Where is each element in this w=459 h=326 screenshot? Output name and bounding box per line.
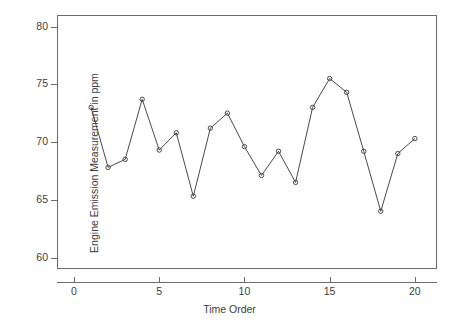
x-axis-tick bbox=[415, 277, 416, 282]
series-markers bbox=[89, 76, 417, 213]
y-axis-tick bbox=[51, 200, 57, 201]
data-layer bbox=[57, 15, 437, 269]
x-axis-tick-label: 0 bbox=[71, 286, 77, 297]
engine-emission-time-series-chart: 6065707580 Engine Emission Measurement i… bbox=[0, 0, 459, 326]
y-axis-title: Engine Emission Measurement in ppm bbox=[88, 73, 100, 253]
y-axis-tick bbox=[51, 84, 57, 85]
y-axis-tick-label: 70 bbox=[36, 136, 48, 147]
x-axis-tick bbox=[159, 277, 160, 282]
y-axis-tick-label: 80 bbox=[36, 21, 48, 32]
y-axis-tick bbox=[51, 258, 57, 259]
y-axis-tick bbox=[51, 27, 57, 28]
x-axis-tick-label: 10 bbox=[239, 286, 251, 297]
y-axis-tick-label: 60 bbox=[36, 252, 48, 263]
x-axis-tick-label: 20 bbox=[409, 286, 421, 297]
x-axis-tick-label: 15 bbox=[324, 286, 336, 297]
x-axis-title: Time Order bbox=[0, 303, 459, 315]
x-axis-tick bbox=[74, 277, 75, 282]
x-axis-tick bbox=[244, 277, 245, 282]
x-axis-tick-label: 5 bbox=[156, 286, 162, 297]
y-axis-tick bbox=[51, 142, 57, 143]
y-axis-tick-label: 75 bbox=[36, 78, 48, 89]
x-axis-line bbox=[57, 282, 437, 283]
y-axis-tick-label: 65 bbox=[36, 194, 48, 205]
x-axis-tick bbox=[330, 277, 331, 282]
